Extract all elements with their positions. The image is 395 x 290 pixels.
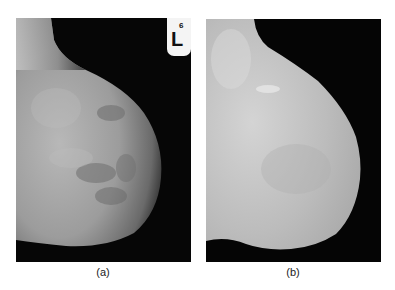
laterality-marker: 6 L bbox=[167, 18, 191, 56]
marker-letter: L bbox=[171, 28, 183, 50]
mammogram-original-image: 6 L bbox=[16, 18, 191, 262]
mammogram-segmented-image bbox=[206, 19, 381, 262]
caption-b: (b) bbox=[263, 266, 323, 278]
caption-a: (a) bbox=[73, 266, 133, 278]
